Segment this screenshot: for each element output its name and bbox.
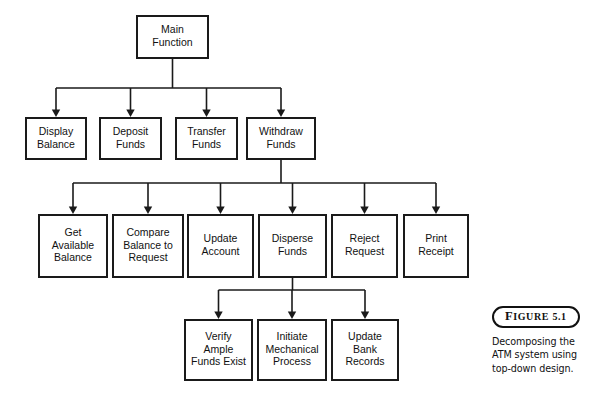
node-label-get_available-line-2: Available: [52, 239, 95, 251]
node-label-initiate_mech-line-3: Process: [273, 355, 311, 367]
node-layer: MainFunctionDisplayBalanceDepositFundsTr…: [26, 16, 468, 380]
node-disperse: DisperseFunds: [259, 215, 326, 277]
arrow-head-compare: [144, 207, 152, 215]
node-display: DisplayBalance: [26, 118, 86, 159]
node-label-main-line-2: Function: [152, 36, 192, 48]
arrow-head-verify_ample: [214, 312, 222, 320]
node-label-disperse-line-1: Disperse: [272, 232, 314, 244]
node-label-reject-line-2: Request: [345, 245, 384, 257]
node-label-update_bank-line-1: Update: [348, 330, 382, 342]
arrow-head-update_account: [216, 207, 224, 215]
node-label-initiate_mech-line-1: Initiate: [277, 330, 308, 342]
node-verify_ample: VerifyAmpleFunds Exist: [185, 320, 252, 380]
arrow-head-transfer: [202, 110, 210, 118]
node-transfer: TransferFunds: [176, 118, 237, 159]
node-label-initiate_mech-line-2: Mechanical: [265, 343, 318, 355]
arrow-head-reject: [360, 207, 368, 215]
figure-description-line-1: Decomposing the: [492, 335, 604, 349]
edge-group-withdraw-children: [69, 159, 440, 214]
arrow-head-deposit: [126, 110, 134, 118]
arrow-head-update_bank: [361, 312, 369, 320]
edge-group-disperse-children: [214, 277, 369, 319]
node-compare: CompareBalance toRequest: [113, 215, 183, 277]
figure-caption-block: FIGURE 5.1 Decomposing the ATM system us…: [492, 306, 604, 376]
node-initiate_mech: InitiateMechanicalProcess: [258, 320, 326, 380]
node-label-transfer-line-1: Transfer: [187, 125, 226, 137]
node-label-print_receipt-line-2: Receipt: [418, 245, 454, 257]
node-update_bank: UpdateBankRecords: [332, 320, 398, 380]
node-label-display-line-1: Display: [39, 125, 74, 137]
figure-label-rest: IGURE: [513, 311, 549, 322]
connector-layer: [52, 58, 440, 319]
arrow-head-get_available: [69, 207, 77, 215]
arrow-head-print_receipt: [432, 207, 440, 215]
arrow-head-disperse: [288, 207, 296, 215]
arrow-head-initiate_mech: [288, 312, 296, 320]
node-label-verify_ample-line-3: Funds Exist: [191, 355, 246, 367]
node-label-display-line-2: Balance: [37, 138, 75, 150]
arrow-head-withdraw: [277, 110, 285, 118]
node-label-update_account-line-2: Account: [202, 245, 240, 257]
node-label-disperse-line-2: Funds: [278, 245, 307, 257]
node-label-main-line-1: Main: [161, 23, 184, 35]
figure-description-line-3: top-down design.: [492, 362, 604, 376]
node-label-update_account-line-1: Update: [204, 232, 238, 244]
node-update_account: UpdateAccount: [188, 215, 253, 277]
arrow-head-display: [52, 110, 60, 118]
node-label-verify_ample-line-2: Ample: [204, 343, 234, 355]
figure-description: Decomposing the ATM system using top-dow…: [492, 335, 604, 376]
node-label-withdraw-line-2: Funds: [266, 138, 295, 150]
node-label-update_bank-line-2: Bank: [353, 343, 378, 355]
node-reject: RejectRequest: [332, 215, 397, 277]
node-label-get_available-line-1: Get: [65, 226, 82, 238]
node-main: MainFunction: [137, 16, 208, 58]
figure-label-prefix: F: [505, 309, 513, 323]
figure-number-pill: FIGURE 5.1: [492, 306, 580, 328]
node-label-transfer-line-2: Funds: [192, 138, 221, 150]
node-label-compare-line-2: Balance to: [123, 239, 173, 251]
node-label-print_receipt-line-1: Print: [425, 232, 447, 244]
node-label-withdraw-line-1: Withdraw: [259, 125, 303, 137]
node-deposit: DepositFunds: [100, 118, 161, 159]
node-label-reject-line-1: Reject: [350, 232, 380, 244]
node-label-update_bank-line-3: Records: [345, 355, 384, 367]
node-label-verify_ample-line-1: Verify: [205, 330, 232, 342]
node-label-deposit-line-1: Deposit: [113, 125, 149, 137]
node-withdraw: WithdrawFunds: [247, 118, 315, 159]
node-get_available: GetAvailableBalance: [39, 215, 107, 277]
node-label-compare-line-1: Compare: [126, 226, 169, 238]
node-label-compare-line-3: Request: [128, 251, 167, 263]
node-print_receipt: PrintReceipt: [404, 215, 468, 277]
figure-number: 5.1: [552, 311, 566, 322]
node-label-deposit-line-2: Funds: [116, 138, 145, 150]
figure-description-line-2: ATM system using: [492, 348, 604, 362]
edge-group-main-children: [52, 58, 285, 117]
node-label-get_available-line-3: Balance: [54, 251, 92, 263]
